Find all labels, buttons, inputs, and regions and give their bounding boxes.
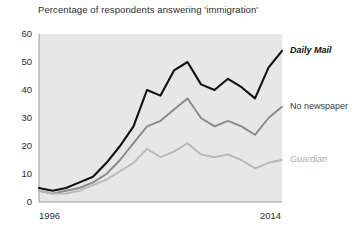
x-tick-label: 2014	[260, 210, 281, 221]
y-tick-label: 50	[21, 56, 32, 67]
chart-figure: 0102030405060 19962014 Daily MailNo news…	[0, 0, 363, 244]
series-label-daily-mail: Daily Mail	[290, 45, 332, 55]
y-tick-label: 30	[21, 112, 32, 123]
x-axis-ticks: 19962014	[39, 210, 281, 221]
series-label-no-newspaper: No newspaper	[290, 101, 348, 111]
y-tick-label: 60	[21, 28, 32, 39]
y-tick-label: 0	[27, 196, 32, 207]
chart-container: Percentage of respondents answering 'imm…	[0, 0, 363, 244]
y-tick-label: 10	[21, 168, 32, 179]
plot-background	[39, 34, 282, 202]
y-tick-label: 40	[21, 84, 32, 95]
x-tick-label: 1996	[39, 210, 60, 221]
series-label-guardian: Guardian	[290, 154, 327, 164]
series-labels: Daily MailNo newspaperGuardian	[290, 45, 348, 164]
y-tick-label: 20	[21, 140, 32, 151]
y-axis-ticks: 0102030405060	[21, 28, 32, 207]
